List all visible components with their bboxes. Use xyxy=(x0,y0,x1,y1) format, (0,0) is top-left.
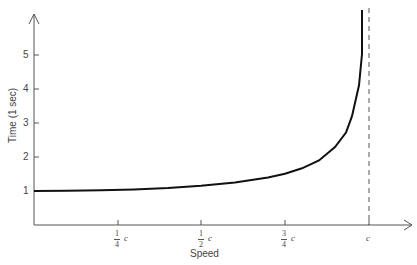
x-tick-three-quarter-fraction: 34 xyxy=(280,230,288,249)
x-tick-c-label: c xyxy=(366,233,370,243)
x-tick-quarter-unit: c xyxy=(124,233,128,243)
x-tick-quarter-fraction: 14 xyxy=(113,230,121,249)
x-tick-half-unit: c xyxy=(208,233,212,243)
x-axis-label: Speed xyxy=(190,248,219,259)
y-ticks xyxy=(34,55,39,191)
y-tick-label-3: 3 xyxy=(23,117,29,128)
y-tick-label-4: 4 xyxy=(23,83,29,94)
chart-canvas xyxy=(0,0,417,265)
y-tick-label-5: 5 xyxy=(23,49,29,60)
x-tick-three-quarter-unit: c xyxy=(291,233,295,243)
x-tick-half-fraction: 12 xyxy=(197,230,205,249)
x-ticks xyxy=(118,220,369,225)
time-dilation-curve xyxy=(34,10,362,191)
y-tick-label-2: 2 xyxy=(23,151,29,162)
y-axis-label: Time (1 sec) xyxy=(7,88,18,143)
y-tick-label-1: 1 xyxy=(23,185,29,196)
